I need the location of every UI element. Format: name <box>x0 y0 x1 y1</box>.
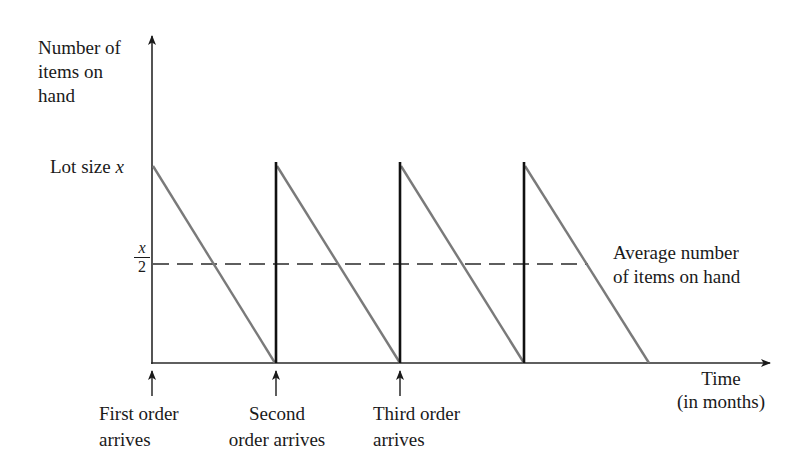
y-axis-label-line-2: items on <box>38 60 121 84</box>
y-axis-label-line-3: hand <box>38 84 121 108</box>
average-label-line-2: of items on hand <box>613 265 740 289</box>
second-order-line-1: Second <box>214 401 340 427</box>
x-axis-label-line-1: Time <box>650 367 792 390</box>
y-axis-label-line-1: Number of <box>38 36 121 60</box>
lot-size-variable: x <box>115 156 123 177</box>
first-order-line-1: First order <box>99 401 179 427</box>
inventory-sawtooth-diagram: Number of items on hand Lot size x x 2 A… <box>0 0 804 463</box>
third-order-line-1: Third order <box>373 401 460 427</box>
y-axis-label: Number of items on hand <box>38 36 121 108</box>
first-order-line-2: arrives <box>99 427 179 453</box>
order-arrival-arrows <box>152 371 400 396</box>
lot-size-text: Lot size <box>50 156 111 177</box>
x-axis-label: Time (in months) <box>650 367 792 413</box>
x-axis-label-line-2: (in months) <box>650 390 792 413</box>
third-order-line-2: arrives <box>373 427 460 453</box>
third-order-label: Third order arrives <box>373 401 460 453</box>
half-lot-size-label: x 2 <box>134 240 150 275</box>
first-order-label: First order arrives <box>99 401 179 453</box>
lot-size-label: Lot size x <box>50 155 124 178</box>
average-label-line-1: Average number <box>613 241 740 265</box>
second-order-line-2: order arrives <box>214 427 340 453</box>
sawtooth-replenishment-lines <box>276 162 524 363</box>
half-label-numerator: x <box>134 240 150 258</box>
half-label-denominator: 2 <box>134 258 150 275</box>
second-order-label: Second order arrives <box>214 401 340 453</box>
average-label: Average number of items on hand <box>613 241 740 289</box>
